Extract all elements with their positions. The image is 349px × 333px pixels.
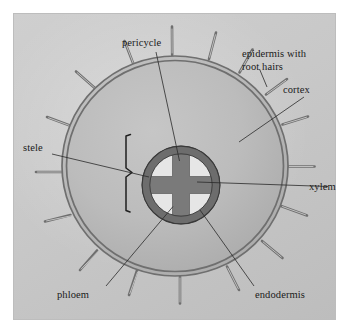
root-hair bbox=[209, 33, 216, 60]
root-hair bbox=[227, 267, 239, 291]
root-hair bbox=[281, 206, 307, 216]
root-hair bbox=[283, 117, 309, 125]
label-endodermis: endodermis bbox=[255, 289, 305, 300]
root-hair bbox=[76, 72, 98, 91]
root-cross-section-diagram: pericycle epidermis with root hairs cort… bbox=[14, 14, 337, 321]
label-pericycle: pericycle bbox=[122, 37, 162, 48]
label-xylem: xylem bbox=[309, 181, 336, 192]
stele-group bbox=[142, 146, 220, 224]
root-hair bbox=[262, 241, 283, 258]
root-hair bbox=[80, 251, 98, 271]
root-hair bbox=[45, 215, 72, 222]
root-hair bbox=[129, 271, 138, 296]
label-epidermis-line1: epidermis with bbox=[242, 48, 307, 59]
label-epidermis-line2: root hairs bbox=[242, 61, 283, 72]
label-cortex: cortex bbox=[283, 84, 310, 95]
label-stele: stele bbox=[23, 142, 43, 153]
label-phloem: phloem bbox=[57, 289, 89, 300]
figure-root: pericycle epidermis with root hairs cort… bbox=[0, 0, 349, 333]
diagram-panel: pericycle epidermis with root hairs cort… bbox=[13, 13, 336, 320]
